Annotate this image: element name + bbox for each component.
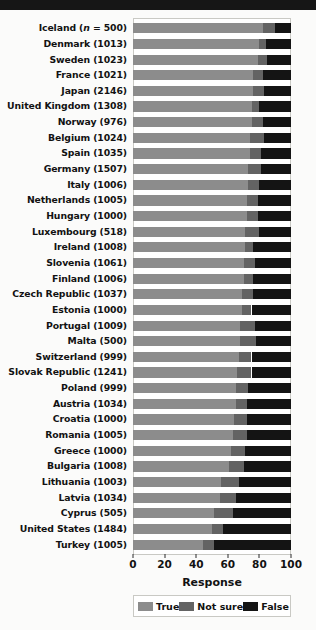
bar-row <box>133 367 291 377</box>
axis-tick-label: 100 <box>280 558 302 570</box>
bar-row <box>133 305 291 315</box>
bar-segment-true <box>133 399 236 409</box>
bar-segment-true <box>133 508 214 518</box>
category-label: Austria (1034) <box>53 399 127 409</box>
category-label: Cyprus (505) <box>61 508 127 518</box>
bar-segment-false <box>247 414 291 424</box>
bar-segment-true <box>133 55 258 65</box>
axis-tick-label: 20 <box>157 558 172 570</box>
bar-segment-false <box>259 180 291 190</box>
bar-row <box>133 211 291 221</box>
bar-segment-notsure <box>203 540 214 550</box>
bar-segment-false <box>248 383 291 393</box>
value-axis: 020406080100 <box>133 558 291 574</box>
bar-segment-notsure <box>248 180 259 190</box>
bar-segment-false <box>233 508 291 518</box>
category-label: Japan (2146) <box>61 86 127 96</box>
plot-area <box>133 18 291 555</box>
bar-segment-true <box>133 211 247 221</box>
bar-segment-false <box>244 461 291 471</box>
bar-row <box>133 508 291 518</box>
bar-segment-true <box>133 367 237 377</box>
axis-tick-label: 80 <box>252 558 267 570</box>
bar-row <box>133 414 291 424</box>
bar-segment-true <box>133 414 234 424</box>
bar-segment-false <box>252 352 292 362</box>
bar-segment-notsure <box>247 211 258 221</box>
bar-segment-true <box>133 540 203 550</box>
bar-segment-notsure <box>240 336 256 346</box>
bar-segment-false <box>255 258 291 268</box>
bar-row <box>133 148 291 158</box>
category-label: Sweden (1023) <box>50 55 127 65</box>
bar-row <box>133 524 291 534</box>
category-label: United Kingdom (1308) <box>7 101 127 111</box>
category-label: Lithuania (1003) <box>42 477 127 487</box>
bar-row <box>133 39 291 49</box>
bar-row <box>133 55 291 65</box>
bar-segment-false <box>236 493 291 503</box>
bar-row <box>133 461 291 471</box>
category-label: Greece (1000) <box>54 446 127 456</box>
bar-row <box>133 101 291 111</box>
bar-segment-true <box>133 164 248 174</box>
bar-segment-false <box>259 101 291 111</box>
bar-segment-true <box>133 430 233 440</box>
bar-segment-false <box>252 367 292 377</box>
bar-row <box>133 289 291 299</box>
bar-segment-true <box>133 242 245 252</box>
bar-row <box>133 493 291 503</box>
legend-label-false: False <box>261 601 289 612</box>
category-label: Iceland (n = 500) <box>39 23 127 33</box>
bar-row <box>133 399 291 409</box>
bar-segment-false <box>259 227 291 237</box>
category-label: Bulgaria (1008) <box>47 461 127 471</box>
bar-segment-false <box>252 305 292 315</box>
bar-segment-true <box>133 524 212 534</box>
legend-item-not-sure[interactable]: Not sure <box>179 601 243 612</box>
bar-segment-notsure <box>245 227 259 237</box>
bar-segment-notsure <box>220 493 236 503</box>
bar-row <box>133 164 291 174</box>
bar-row <box>133 258 291 268</box>
bar-row <box>133 477 291 487</box>
bar-segment-false <box>275 23 291 33</box>
category-label: Romania (1005) <box>45 430 127 440</box>
bar-row <box>133 195 291 205</box>
bar-segment-notsure <box>231 446 245 456</box>
category-label: Ireland (1008) <box>54 242 127 252</box>
bar-row <box>133 86 291 96</box>
bar-segment-true <box>133 274 244 284</box>
bar-segment-true <box>133 258 244 268</box>
legend-swatch-not-sure-icon <box>179 602 194 611</box>
bar-row <box>133 540 291 550</box>
bar-segment-notsure <box>236 383 249 393</box>
bar-segment-true <box>133 289 242 299</box>
bar-row <box>133 117 291 127</box>
category-label: Slovenia (1061) <box>46 258 127 268</box>
bar-segment-false <box>256 336 291 346</box>
bar-segment-false <box>253 274 291 284</box>
category-label: Czech Republic (1037) <box>12 289 127 299</box>
legend-item-false[interactable]: False <box>243 601 289 612</box>
category-label: Malta (500) <box>68 336 127 346</box>
axis-tick-label: 0 <box>129 558 136 570</box>
bar-segment-true <box>133 148 250 158</box>
bar-segment-notsure <box>248 164 261 174</box>
bar-segment-notsure <box>245 242 253 252</box>
bar-segment-notsure <box>244 258 255 268</box>
legend-swatch-false-icon <box>243 602 258 611</box>
bar-segment-false <box>258 195 291 205</box>
bar-row <box>133 274 291 284</box>
bar-segment-false <box>253 242 291 252</box>
category-label: Poland (999) <box>61 383 127 393</box>
bar-row <box>133 133 291 143</box>
bar-segment-false <box>245 446 291 456</box>
bar-segment-notsure <box>252 101 260 111</box>
bar-segment-false <box>264 86 291 96</box>
legend-item-true[interactable]: True <box>138 601 179 612</box>
bar-segment-true <box>133 352 239 362</box>
category-label: Slovak Republic (1241) <box>8 367 127 377</box>
legend-swatch-true-icon <box>138 602 153 611</box>
bar-row <box>133 430 291 440</box>
